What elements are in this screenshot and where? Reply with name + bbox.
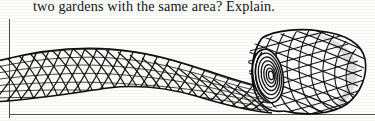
question-text: two gardens with the same area? Explain. [33,0,353,14]
mesh-roll-illustration [0,16,375,116]
textbook-page-fragment: two gardens with the same area? Explain. [0,0,375,121]
flat-mesh-sheet [0,45,275,116]
mesh-sheet-outline [0,48,272,113]
